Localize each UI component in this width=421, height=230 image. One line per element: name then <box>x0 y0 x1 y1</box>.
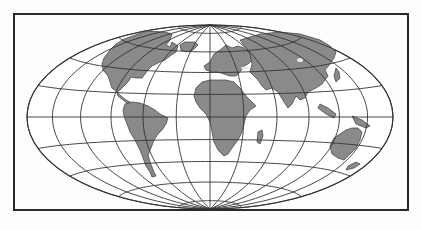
world-map-svg <box>0 0 421 230</box>
world-map-figure <box>0 0 421 230</box>
globe <box>27 25 393 209</box>
lake <box>297 58 303 62</box>
sea-black <box>241 67 249 70</box>
